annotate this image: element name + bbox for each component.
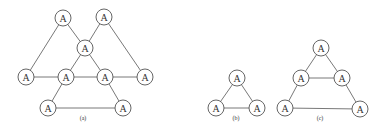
node-a7: A (137, 69, 153, 85)
node-a2: A (96, 9, 112, 25)
node-label: A (119, 103, 127, 114)
caption-c: (c) (317, 115, 324, 122)
node-label: A (233, 73, 241, 84)
node-b1: A (229, 70, 245, 86)
node-c3: A (334, 70, 350, 86)
caption-b: (b) (233, 115, 240, 122)
node-label: A (317, 43, 325, 54)
node-a8: A (40, 100, 56, 116)
node-a9: A (115, 100, 131, 116)
node-label: A (62, 72, 70, 83)
node-label: A (22, 72, 30, 83)
diagram-canvas: AAAAAAAAAAAAAAAAA (a)(b)(c) (0, 0, 384, 127)
node-label: A (281, 103, 289, 114)
node-c2: A (293, 70, 309, 86)
node-label: A (81, 43, 89, 54)
node-label: A (212, 103, 220, 114)
node-c1: A (313, 40, 329, 56)
nodes-layer: AAAAAAAAAAAAAAAAA (18, 9, 368, 117)
graph-figures: AAAAAAAAAAAAAAAAA (a)(b)(c) (0, 0, 384, 127)
node-label: A (253, 103, 261, 114)
edge-a2-a7 (104, 17, 145, 77)
node-c5: A (352, 101, 368, 117)
node-label: A (297, 73, 305, 84)
node-b2: A (208, 100, 224, 116)
edge-a1-a4 (26, 18, 63, 77)
node-label: A (101, 72, 109, 83)
node-a3: A (77, 40, 93, 56)
node-a5: A (58, 69, 74, 85)
node-a1: A (55, 10, 71, 26)
node-label: A (338, 73, 346, 84)
node-a4: A (18, 69, 34, 85)
node-label: A (100, 12, 108, 23)
node-label: A (141, 72, 149, 83)
node-label: A (59, 13, 67, 24)
node-label: A (44, 103, 52, 114)
edges-layer (26, 17, 360, 109)
node-a6: A (97, 69, 113, 85)
node-b3: A (249, 100, 265, 116)
node-c4: A (277, 100, 293, 116)
edge-c4-c5 (285, 108, 360, 109)
caption-a: (a) (80, 115, 87, 122)
node-label: A (356, 104, 364, 115)
